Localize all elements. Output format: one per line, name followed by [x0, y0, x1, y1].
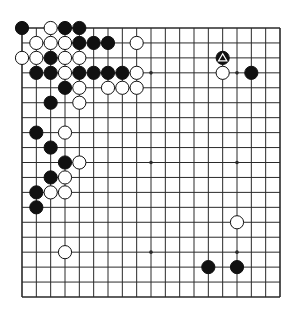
- black-stone: [73, 66, 86, 79]
- black-stone: [202, 261, 215, 274]
- white-stone: [58, 36, 71, 49]
- star-point: [149, 161, 153, 165]
- black-stone: [30, 66, 43, 79]
- white-stone: [130, 36, 143, 49]
- black-stone: [116, 66, 129, 79]
- white-stone: [58, 126, 71, 139]
- white-stone: [101, 81, 114, 94]
- white-stone: [73, 96, 86, 109]
- white-stone: [58, 171, 71, 184]
- white-stone: [73, 156, 86, 169]
- white-stone: [73, 51, 86, 64]
- black-stone: [44, 96, 57, 109]
- black-stone: [30, 201, 43, 214]
- black-stone: [101, 66, 114, 79]
- black-stone: [87, 66, 100, 79]
- black-stone: [30, 126, 43, 139]
- black-stone: [44, 171, 57, 184]
- white-stone: [58, 51, 71, 64]
- white-stone: [44, 21, 57, 34]
- black-stone: [73, 36, 86, 49]
- black-stone: [15, 21, 28, 34]
- black-stone: [44, 51, 57, 64]
- black-stone: [58, 81, 71, 94]
- black-stone: [230, 261, 243, 274]
- white-stone: [216, 66, 229, 79]
- star-point: [235, 250, 239, 254]
- white-stone: [58, 186, 71, 199]
- white-stone: [130, 66, 143, 79]
- black-stone: [101, 36, 114, 49]
- white-stone: [58, 66, 71, 79]
- white-stone: [15, 51, 28, 64]
- white-stone: [44, 36, 57, 49]
- white-stone: [44, 186, 57, 199]
- black-stone: [245, 66, 258, 79]
- black-stone: [58, 21, 71, 34]
- white-stone: [130, 81, 143, 94]
- white-stone: [58, 246, 71, 259]
- black-stone: [58, 156, 71, 169]
- white-stone: [30, 36, 43, 49]
- star-point: [235, 71, 239, 75]
- white-stone: [30, 51, 43, 64]
- star-point: [235, 161, 239, 165]
- white-stone: [230, 216, 243, 229]
- star-point: [149, 250, 153, 254]
- black-stone: [44, 66, 57, 79]
- go-board: [0, 0, 299, 315]
- black-stone: [30, 186, 43, 199]
- white-stone: [73, 81, 86, 94]
- black-stone: [44, 141, 57, 154]
- white-stone: [116, 81, 129, 94]
- black-stone: [73, 21, 86, 34]
- star-point: [149, 71, 153, 75]
- black-stone: [87, 36, 100, 49]
